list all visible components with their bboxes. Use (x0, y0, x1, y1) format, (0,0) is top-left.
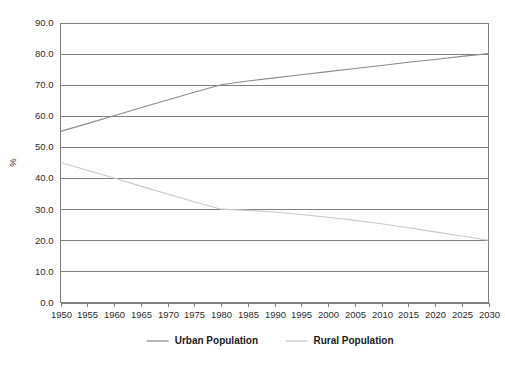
series-line-rural-population (61, 163, 489, 241)
x-tick-label: 1970 (158, 309, 179, 320)
y-tick-label: 40.0 (35, 172, 54, 183)
x-tick-label: 1950 (51, 309, 72, 320)
chart-canvas: 0.010.020.030.040.050.060.070.080.090.01… (0, 0, 505, 366)
series-group (61, 54, 489, 241)
y-axis-tick-labels: 0.010.020.030.040.050.060.070.080.090.0 (35, 17, 54, 308)
legend-label: Urban Population (175, 335, 258, 346)
x-tick-label: 2000 (318, 309, 339, 320)
y-axis-title: % (7, 158, 18, 167)
x-tick-label: 1955 (77, 309, 98, 320)
x-tick-label: 2020 (425, 309, 446, 320)
x-tick-label: 1995 (291, 309, 312, 320)
x-tick-label: 1980 (211, 309, 232, 320)
legend-item-urban-population[interactable]: Urban Population (147, 335, 258, 346)
chart-legend: Urban PopulationRural Population (147, 335, 394, 346)
x-axis-ticks: 1950195519601965197019751980198519901995… (51, 303, 500, 320)
x-tick-label: 2005 (345, 309, 366, 320)
line-chart: 0.010.020.030.040.050.060.070.080.090.01… (0, 0, 505, 366)
y-tick-label: 90.0 (35, 17, 54, 28)
x-tick-label: 1975 (184, 309, 205, 320)
y-tick-label: 50.0 (35, 141, 54, 152)
gridlines (61, 24, 489, 304)
legend-label: Rural Population (314, 335, 394, 346)
x-tick-label: 1985 (238, 309, 259, 320)
y-tick-label: 70.0 (35, 79, 54, 90)
y-tick-label: 10.0 (35, 266, 54, 277)
x-tick-label: 1990 (265, 309, 286, 320)
x-tick-label: 1965 (131, 309, 152, 320)
x-tick-label: 2025 (452, 309, 473, 320)
y-tick-label: 30.0 (35, 204, 54, 215)
plot-frame (61, 23, 489, 303)
x-tick-label: 2010 (372, 309, 393, 320)
y-tick-label: 60.0 (35, 110, 54, 121)
series-line-urban-population (61, 54, 489, 132)
x-tick-label: 2015 (398, 309, 419, 320)
legend-item-rural-population[interactable]: Rural Population (286, 335, 394, 346)
y-tick-label: 0.0 (40, 297, 53, 308)
x-tick-label: 1960 (104, 309, 125, 320)
y-tick-label: 20.0 (35, 235, 54, 246)
x-tick-label: 2030 (479, 309, 500, 320)
y-tick-label: 80.0 (35, 48, 54, 59)
